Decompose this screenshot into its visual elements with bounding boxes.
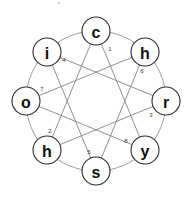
ring-arc-8-5 <box>110 159 135 169</box>
graph-node-3[interactable]: 3r <box>149 87 180 118</box>
graph-node-1[interactable]: 1c <box>82 17 112 52</box>
node-label-8: y <box>141 143 150 160</box>
circular-graph-diagram: 1c6h3r8y5s2h7o4i <box>0 0 192 202</box>
node-layer: 1c6h3r8y5s2h7o4i <box>12 17 180 185</box>
node-label-6: h <box>140 45 150 62</box>
node-index-3: 3 <box>149 112 153 118</box>
graph-canvas: 1c6h3r8y5s2h7o4i <box>0 0 192 202</box>
ring-arc-6-3 <box>154 62 164 87</box>
node-index-7: 7 <box>40 86 44 92</box>
node-index-6: 6 <box>140 68 144 74</box>
node-index-2: 2 <box>48 128 52 134</box>
ring-arc-2-7 <box>27 115 37 140</box>
graph-node-4[interactable]: 4i <box>33 38 66 66</box>
ring-arc-5-2 <box>57 159 82 169</box>
graph-node-6[interactable]: 6h <box>131 38 159 74</box>
graph-node-7[interactable]: 7o <box>12 86 44 115</box>
ring-arc-3-8 <box>154 115 164 140</box>
graph-node-5[interactable]: 5s <box>82 149 110 185</box>
speck-artifact <box>58 2 60 4</box>
ring-arc-1-6 <box>110 32 135 42</box>
node-label-1: c <box>92 24 101 41</box>
ring-arc-7-4 <box>27 62 37 87</box>
node-index-1: 1 <box>108 46 112 52</box>
node-label-7: o <box>21 94 31 111</box>
graph-node-2[interactable]: 2h <box>33 128 61 164</box>
node-label-2: h <box>42 143 52 160</box>
node-label-4: i <box>45 45 49 62</box>
node-label-5: s <box>92 164 101 181</box>
node-label-3: r <box>163 94 169 111</box>
artifact-speck-layer <box>58 2 60 4</box>
ring-arc-4-1 <box>57 32 82 42</box>
node-index-5: 5 <box>87 149 91 155</box>
graph-node-8[interactable]: 8y <box>124 136 159 164</box>
